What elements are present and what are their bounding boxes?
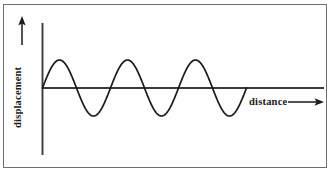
x-axis-arrow-group xyxy=(288,98,324,105)
x-axis-label: distance xyxy=(249,95,287,108)
wave-plot xyxy=(0,0,332,176)
y-axis-label: displacement xyxy=(9,56,27,138)
y-axis-arrow-group xyxy=(18,16,25,45)
wave-diagram-figure: displacement distance xyxy=(0,0,332,176)
